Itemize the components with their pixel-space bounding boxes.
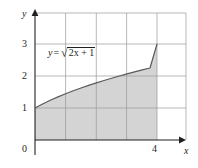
x-axis-label: x: [184, 146, 188, 156]
origin-label: 0: [22, 144, 27, 154]
curve-equation-label: y=√2x + 1: [48, 47, 95, 59]
figure-container: y x 3 2 1 0 4 y=√2x + 1: [0, 0, 198, 168]
y-axis-label: y: [22, 9, 26, 19]
y-tick-label-1: 1: [22, 103, 27, 113]
plot-canvas: [0, 0, 198, 168]
y-tick-label-3: 3: [22, 39, 27, 49]
equation-equals-sign: =: [52, 47, 60, 58]
y-tick-label-2: 2: [22, 71, 27, 81]
x-tick-label-4: 4: [152, 144, 157, 154]
equation-radicand: 2x + 1: [67, 47, 96, 58]
radical-group: √2x + 1: [60, 47, 95, 59]
